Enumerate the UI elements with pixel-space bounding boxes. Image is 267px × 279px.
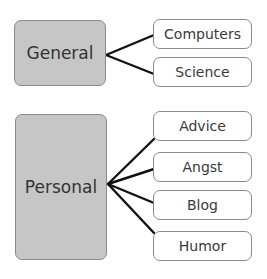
- connector-personal-humor: [108, 184, 154, 233]
- subcategory-label: Computers: [164, 26, 241, 42]
- subcategory-humor: Humor: [153, 231, 252, 261]
- subcategory-blog: Blog: [153, 190, 252, 220]
- subcategory-angst: Angst: [153, 152, 252, 182]
- connector-general-science: [106, 55, 154, 74]
- category-personal-label: Personal: [25, 177, 97, 197]
- subcategory-computers: Computers: [153, 19, 252, 49]
- subcategory-label: Advice: [179, 118, 226, 134]
- category-personal: Personal: [15, 114, 107, 260]
- category-general: General: [14, 20, 106, 86]
- connector-general-computers: [106, 35, 154, 55]
- connector-personal-blog: [108, 184, 154, 203]
- category-general-label: General: [27, 43, 94, 63]
- subcategory-label: Angst: [182, 159, 222, 175]
- subcategory-label: Humor: [179, 238, 226, 254]
- subcategory-advice: Advice: [153, 111, 252, 141]
- subcategory-science: Science: [153, 57, 252, 87]
- subcategory-label: Blog: [187, 197, 218, 213]
- subcategory-label: Science: [175, 64, 229, 80]
